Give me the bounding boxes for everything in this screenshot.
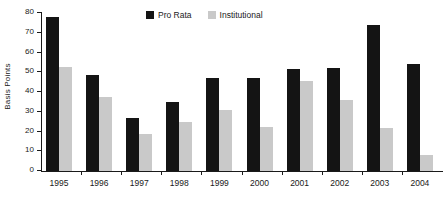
x-axis-tick [201, 171, 202, 175]
y-axis-tick: 50 [37, 71, 41, 72]
bar-pro-rata-2002 [327, 68, 340, 171]
x-axis-label-1999: 1999 [210, 178, 229, 188]
y-axis-tick: 20 [37, 131, 41, 132]
bar-pro-rata-2004 [407, 64, 420, 171]
x-axis-tick [121, 171, 122, 175]
y-axis-tick-label: 50 [25, 66, 34, 75]
bar-pro-rata-1995 [46, 17, 59, 171]
bar-pro-rata-2000 [247, 78, 260, 171]
x-axis-label-1998: 1998 [170, 178, 189, 188]
y-axis-tick-label: 0 [30, 165, 34, 174]
x-axis-tick [81, 171, 82, 175]
bar-institutional-2001 [300, 81, 313, 171]
bar-institutional-1997 [139, 134, 152, 171]
bar-institutional-1996 [99, 97, 112, 171]
bar-chart: Pro Rata Institutional Basis Points 0102… [0, 0, 447, 200]
x-axis-tick [282, 171, 283, 175]
y-axis-tick-label: 60 [25, 47, 34, 56]
y-axis-tick: 10 [37, 150, 41, 151]
bar-pro-rata-1997 [126, 118, 139, 171]
bar-institutional-2000 [260, 127, 273, 171]
x-axis-label-2002: 2002 [330, 178, 349, 188]
x-axis-label-2000: 2000 [250, 178, 269, 188]
y-axis-tick: 80 [37, 12, 41, 13]
bar-pro-rata-2001 [287, 69, 300, 171]
x-axis-tick [362, 171, 363, 175]
x-axis-label-2004: 2004 [410, 178, 429, 188]
x-axis-label-2001: 2001 [290, 178, 309, 188]
x-axis-tick [161, 171, 162, 175]
y-axis-tick-label: 40 [25, 86, 34, 95]
bar-pro-rata-2003 [367, 25, 380, 171]
bar-pro-rata-1998 [166, 102, 179, 171]
y-axis-tick: 70 [37, 32, 41, 33]
y-axis-tick-label: 70 [25, 27, 34, 36]
y-axis-tick-label: 80 [25, 7, 34, 16]
y-axis-tick: 0 [37, 170, 41, 171]
x-axis-tick [402, 171, 403, 175]
y-axis-title-text: Basis Points [3, 63, 12, 109]
y-axis-title: Basis Points [0, 0, 14, 172]
y-axis-line [41, 12, 42, 172]
y-axis-tick: 60 [37, 52, 41, 53]
bar-institutional-2003 [380, 128, 393, 171]
x-axis-label-1995: 1995 [50, 178, 69, 188]
x-axis-label-1997: 1997 [130, 178, 149, 188]
plot-area: 01020304050607080 [41, 13, 442, 171]
y-axis-tick-label: 30 [25, 106, 34, 115]
bar-institutional-1995 [59, 67, 72, 171]
x-axis-tick [322, 171, 323, 175]
bar-institutional-2002 [340, 100, 353, 171]
x-axis-label-1996: 1996 [90, 178, 109, 188]
y-axis-tick: 30 [37, 111, 41, 112]
y-axis-tick: 40 [37, 91, 41, 92]
bar-institutional-1999 [219, 110, 232, 171]
bar-institutional-2004 [420, 155, 433, 171]
y-axis-tick-label: 20 [25, 126, 34, 135]
bar-pro-rata-1996 [86, 75, 99, 171]
x-axis-label-2003: 2003 [370, 178, 389, 188]
bar-institutional-1998 [179, 122, 192, 171]
y-axis-tick-label: 10 [25, 145, 34, 154]
bar-pro-rata-1999 [206, 78, 219, 171]
x-axis-tick [242, 171, 243, 175]
